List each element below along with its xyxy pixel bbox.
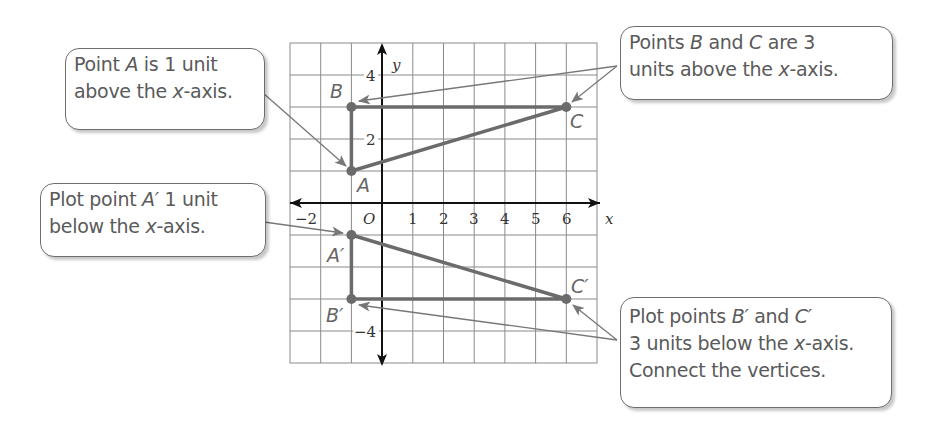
label-b-prime: B′ [326,304,344,326]
y-tick-4: 4 [366,67,376,85]
label-b: B [330,80,343,102]
callout-line: below the x-axis. [49,213,257,240]
label-a-prime: A′ [325,244,345,266]
callout-line: Connect the vertices. [629,357,883,384]
arrow-to-b-prime [359,305,617,340]
callout-line: Plot point A′ 1 unit [49,186,257,213]
point-b-prime [346,294,356,304]
point-a [346,166,356,176]
x-tick-6: 6 [562,210,572,228]
y-axis-label: y [391,56,401,74]
x-tick-neg2: −2 [295,210,317,228]
point-b [346,102,356,112]
point-c-prime [561,294,571,304]
y-tick-neg4: −4 [354,323,376,341]
x-axis-label: x [605,210,614,228]
y-tick-2: 2 [366,131,376,149]
x-tick-1: 1 [408,210,418,228]
point-a-prime [346,230,356,240]
label-c: C [570,110,584,132]
callout-point-a-prime: Plot point A′ 1 unit below the x-axis. [40,183,266,257]
callout-line: Points B and C are 3 [629,29,884,56]
label-a: A [355,174,370,196]
callout-line: above the x-axis. [74,78,256,105]
arrow-to-a [263,93,346,166]
x-tick-4: 4 [500,210,510,228]
callout-point-a: Point A is 1 unit above the x-axis. [65,48,265,130]
x-tick-5: 5 [531,210,541,228]
callout-line: Plot points B′ and C′ [629,303,883,330]
callout-line: Point A is 1 unit [74,51,256,78]
x-tick-3: 3 [469,210,479,228]
callout-line: 3 units below the x-axis. [629,330,883,357]
origin-label: O [363,210,375,228]
callout-points-b-c-prime: Plot points B′ and C′ 3 units below the … [620,297,892,408]
label-c-prime: C′ [571,275,589,297]
x-tick-2: 2 [439,210,449,228]
callout-line: units above the x-axis. [629,56,884,83]
callout-points-b-c: Points B and C are 3 units above the x-a… [620,26,893,100]
